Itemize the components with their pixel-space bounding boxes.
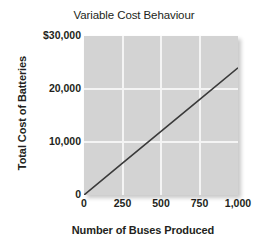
x-axis-tick-labels: 02505007501,000 — [84, 197, 238, 213]
y-tick-label: 10,000 — [3, 135, 81, 147]
chart-title: Variable Cost Behaviour — [0, 9, 268, 21]
x-axis-title: Number of Buses Produced — [28, 224, 258, 236]
y-tick-label: 20,000 — [3, 82, 81, 94]
y-tick-label: $30,000 — [3, 29, 81, 41]
y-axis-tick-labels: 010,00020,000$30,000 — [0, 36, 81, 195]
chart-figure: Variable Cost Behaviour Total Cost of Ba… — [0, 0, 268, 247]
series-line-total-variable-cost — [84, 36, 238, 195]
x-tick-label: 1,000 — [208, 197, 268, 209]
plot-area — [84, 36, 238, 195]
